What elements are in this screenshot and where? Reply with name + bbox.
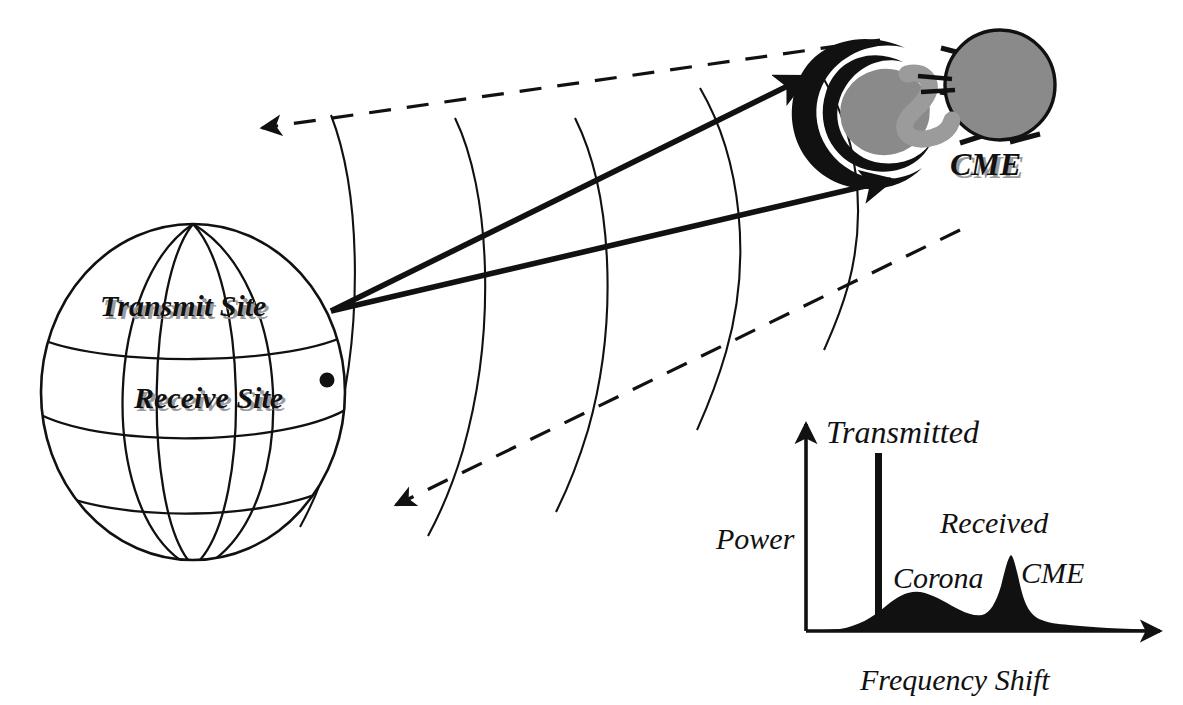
cme-label-group: CME CME xyxy=(950,146,1024,185)
spectrum-xlabel: Frequency Shift xyxy=(859,663,1050,696)
spectrum-label-transmitted: Transmitted xyxy=(826,414,980,450)
cme-label: CME xyxy=(950,146,1021,182)
figure-canvas: Transmit Site Transmit Site Receive Site… xyxy=(0,0,1183,705)
receive-site-label: Receive Site xyxy=(133,381,283,414)
spectrum-label-corona: Corona xyxy=(893,561,984,594)
receive-site-marker xyxy=(320,373,335,388)
spectrum-ylabel: Power xyxy=(715,522,795,555)
sun-circle xyxy=(945,30,1055,140)
transmitted-spike xyxy=(875,453,882,631)
cme-sounding-diagram: Transmit Site Transmit Site Receive Site… xyxy=(0,0,1183,705)
spectrum-label-cme: CME xyxy=(1021,556,1084,589)
spectrum-label-received: Received xyxy=(939,506,1049,539)
transmit-site-label: Transmit Site xyxy=(100,289,266,322)
